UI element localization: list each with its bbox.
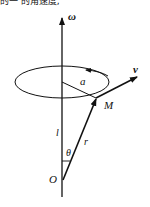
l-label: l bbox=[56, 127, 59, 138]
radius-line bbox=[62, 82, 96, 98]
a-label: a bbox=[80, 75, 86, 87]
r-label: r bbox=[84, 136, 88, 147]
O-label: O bbox=[49, 173, 57, 185]
M-label: M bbox=[103, 99, 114, 111]
caption-fragment: 的一 的角速度, bbox=[0, 0, 60, 6]
theta-label: θ bbox=[66, 147, 71, 158]
cone-rotation-diagram: 的一 的角速度, ω a v M r l θ O bbox=[0, 0, 150, 207]
v-label: v bbox=[133, 63, 138, 75]
omega-label: ω bbox=[68, 10, 76, 22]
position-vector-r bbox=[63, 99, 96, 180]
velocity-vector bbox=[96, 77, 137, 98]
